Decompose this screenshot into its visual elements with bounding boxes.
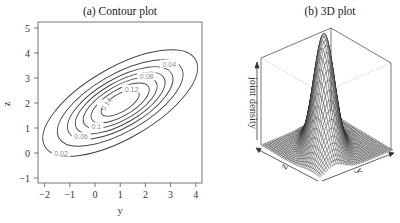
x-tick-label: −1 bbox=[64, 189, 75, 200]
y-tick-label: 3 bbox=[25, 73, 30, 84]
contour-x-axis-label: y bbox=[117, 205, 123, 216]
surface-panel: (b) 3D plot joint density z y bbox=[248, 5, 394, 181]
x-tick-label: −2 bbox=[39, 189, 50, 200]
x-tick-label: 2 bbox=[143, 189, 148, 200]
contour-title: (a) Contour plot bbox=[83, 5, 158, 18]
contour-label-0.1: 0.1 bbox=[91, 123, 101, 130]
contour-label-0.08: 0.08 bbox=[140, 73, 154, 80]
surface-mesh bbox=[261, 34, 393, 178]
contour-y-axis-label: z bbox=[1, 101, 12, 106]
contour-panel: (a) Contour plot 0.020.040.060.080.10.12… bbox=[1, 5, 213, 216]
y-tick-label: 4 bbox=[25, 48, 30, 59]
surface-title: (b) 3D plot bbox=[304, 5, 356, 18]
y-tick-label: 2 bbox=[25, 98, 30, 109]
contour-label-0.06: 0.06 bbox=[74, 133, 88, 140]
figure: (a) Contour plot 0.020.040.060.080.10.12… bbox=[0, 0, 400, 223]
contour-label-0.02: 0.02 bbox=[54, 150, 68, 157]
x-tick-label: 1 bbox=[118, 189, 123, 200]
x-axis-ticks: −2−101234 bbox=[39, 183, 198, 200]
y-tick-label: −1 bbox=[19, 173, 30, 184]
surface-z-direction-label: z bbox=[278, 161, 290, 171]
x-tick-label: 4 bbox=[193, 189, 198, 200]
y-tick-label: 0 bbox=[25, 148, 30, 159]
contour-label-0.12: 0.12 bbox=[125, 86, 139, 93]
y-axis-ticks: −1012345 bbox=[19, 23, 38, 184]
surface-y-direction-label: y bbox=[354, 165, 367, 175]
x-tick-label: 3 bbox=[168, 189, 173, 200]
contour-label-0.04: 0.04 bbox=[163, 61, 177, 68]
y-tick-label: 5 bbox=[25, 23, 30, 34]
x-tick-label: 0 bbox=[93, 189, 98, 200]
surface-z-axis-label: joint density bbox=[248, 76, 259, 130]
y-tick-label: 1 bbox=[25, 123, 30, 134]
